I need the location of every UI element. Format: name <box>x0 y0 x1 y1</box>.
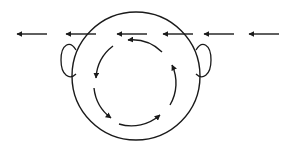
circulation-arrow-right <box>170 65 176 105</box>
diagram-canvas <box>0 0 288 146</box>
circulation-arrow-left <box>96 46 113 78</box>
circulation-arrow-lower-left <box>94 88 111 118</box>
circulation-arrow-bottom <box>119 115 160 126</box>
circulation-arrows <box>94 40 176 126</box>
circulation-arrow-top <box>128 40 162 52</box>
head-outline <box>72 12 200 140</box>
head-airflow-diagram <box>0 0 288 146</box>
